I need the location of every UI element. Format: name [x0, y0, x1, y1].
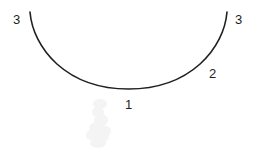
node-label-1: 1	[125, 98, 132, 111]
node-label-left-3: 3	[13, 13, 20, 26]
u-shaped-curve-canvas	[0, 0, 257, 148]
node-label-2: 2	[209, 67, 216, 80]
u-shaped-curve-path	[30, 12, 227, 89]
curve-diagram-figure: 3 3 2 1	[0, 0, 257, 148]
node-label-right-3: 3	[235, 13, 242, 26]
